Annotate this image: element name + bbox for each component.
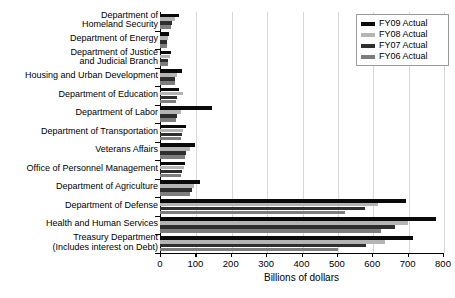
x-axis-tick-label: 0 — [140, 258, 180, 269]
legend-swatch-icon — [361, 22, 375, 26]
x-axis-tick — [372, 253, 373, 257]
bar — [160, 211, 345, 215]
x-axis-tick — [302, 253, 303, 257]
x-axis-tick — [160, 253, 161, 257]
category-label: Housing and Urban Development — [0, 71, 158, 81]
category-label: Department of Education — [0, 90, 158, 100]
category-label: Department of Transportation — [0, 127, 158, 137]
x-axis-tick-label: 400 — [282, 258, 322, 269]
category-label: Department of Labor — [0, 108, 158, 118]
x-axis-tick — [337, 253, 338, 257]
legend-label: FY09 Actual — [379, 18, 428, 29]
x-axis-tick-label: 800 — [423, 258, 455, 269]
x-axis-tick — [408, 253, 409, 257]
category-tick — [155, 197, 160, 198]
category-tick — [155, 253, 160, 254]
category-label: Health and Human Services — [0, 219, 158, 229]
category-tick — [155, 216, 160, 217]
bar — [160, 62, 168, 66]
x-axis-tick — [266, 253, 267, 257]
x-axis-tick-label: 200 — [211, 258, 251, 269]
legend-item[interactable]: FY09 Actual — [361, 18, 444, 29]
legend-item[interactable]: FY07 Actual — [361, 40, 444, 51]
bar — [160, 248, 338, 252]
bar — [160, 192, 190, 196]
category-tick — [155, 86, 160, 87]
x-axis-tick-label: 500 — [317, 258, 357, 269]
category-label: Department of Defense — [0, 201, 158, 211]
legend-swatch-icon — [361, 55, 375, 59]
x-axis-tick-label: 100 — [175, 258, 215, 269]
legend-label: FY08 Actual — [379, 29, 428, 40]
category-label: Veterans Affairs — [0, 145, 158, 155]
legend-item[interactable]: FY08 Actual — [361, 29, 444, 40]
category-label: Department of Energy — [0, 34, 158, 44]
bar — [160, 81, 175, 85]
bar — [160, 174, 181, 178]
bar — [160, 137, 181, 141]
bar-chart: 0100200300400500600700800 Billions of do… — [0, 0, 455, 298]
bar — [160, 25, 171, 29]
category-label: Department of Homeland Security — [0, 11, 158, 30]
category-label: Department of Agriculture — [0, 182, 158, 192]
category-tick — [155, 123, 160, 124]
legend-item[interactable]: FY06 Actual — [361, 51, 444, 62]
legend-label: FY07 Actual — [379, 40, 428, 51]
category-tick — [155, 179, 160, 180]
bar — [160, 100, 176, 104]
category-tick — [155, 142, 160, 143]
category-label: Office of Personnel Management — [0, 164, 158, 174]
category-label: Department of Justice and Judicial Branc… — [0, 48, 158, 67]
bar — [160, 44, 167, 48]
category-tick — [155, 160, 160, 161]
x-axis-tick — [443, 253, 444, 257]
bar — [160, 118, 176, 122]
category-tick — [155, 105, 160, 106]
bar — [160, 229, 381, 233]
legend: FY09 Actual FY08 Actual FY07 Actual FY06… — [356, 14, 449, 66]
x-axis-tick-label: 300 — [246, 258, 286, 269]
x-axis-title: Billions of dollars — [160, 272, 443, 283]
legend-label: FY06 Actual — [379, 51, 428, 62]
category-tick — [155, 31, 160, 32]
x-axis-tick-label: 700 — [388, 258, 428, 269]
category-tick — [155, 68, 160, 69]
bar — [160, 155, 185, 159]
x-axis-tick — [195, 253, 196, 257]
x-axis-tick — [231, 253, 232, 257]
x-axis-tick-label: 600 — [352, 258, 392, 269]
legend-swatch-icon — [361, 33, 375, 37]
category-label: Treasury Department (Includes interest o… — [0, 233, 158, 252]
legend-swatch-icon — [361, 44, 375, 48]
